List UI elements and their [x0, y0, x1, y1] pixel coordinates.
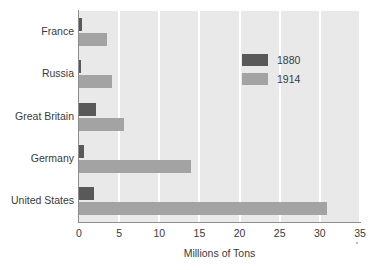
x-axis-line [79, 222, 361, 223]
x-tick-label-15: 15 [184, 226, 214, 240]
gridline-20 [239, 11, 241, 222]
legend-swatch-1914 [242, 73, 268, 85]
category-label-russia: Russia [0, 68, 74, 79]
legend-label-1880: 1880 [277, 54, 300, 66]
x-tick-label-35: 35 [345, 226, 375, 240]
bar-1914-united-states [79, 202, 327, 215]
bar-chart-figure: FranceRussiaGreat BritainGermanyUnited S… [0, 0, 377, 270]
y-axis-line [78, 10, 79, 223]
legend: 1880 1914 [238, 48, 331, 91]
x-tick-label-5: 5 [104, 226, 134, 240]
gridline-5 [118, 11, 120, 222]
x-axis-tick-labels: 05101520253035 [0, 226, 377, 242]
x-tick-label-25: 25 [265, 226, 295, 240]
bar-1914-great-britain [79, 118, 124, 131]
legend-entry-1880: 1880 [242, 52, 328, 67]
x-tick-label-20: 20 [225, 226, 255, 240]
x-tick-label-30: 30 [305, 226, 335, 240]
x-tick-label-10: 10 [144, 226, 174, 240]
bar-1880-germany [79, 145, 84, 158]
bar-1914-germany [79, 160, 191, 173]
bar-1880-russia [79, 60, 81, 73]
gridline-35 [359, 11, 360, 222]
category-label-great-britain: Great Britain [0, 111, 74, 122]
bar-1914-france [79, 33, 107, 46]
bar-1880-france [79, 18, 82, 31]
scan-artifact-speck [356, 242, 358, 244]
category-label-germany: Germany [0, 153, 74, 164]
legend-entry-1914: 1914 [242, 71, 328, 86]
bar-1880-great-britain [79, 103, 96, 116]
gridline-25 [279, 11, 281, 222]
gridline-15 [198, 11, 200, 222]
plot-area [79, 11, 360, 222]
legend-swatch-1880 [242, 54, 268, 66]
category-label-united-states: United States [0, 195, 74, 206]
x-axis-title: Millions of Tons [79, 247, 360, 259]
bar-1880-united-states [79, 187, 94, 200]
legend-label-1914: 1914 [277, 73, 300, 85]
category-label-france: France [0, 26, 74, 37]
category-axis-labels: FranceRussiaGreat BritainGermanyUnited S… [0, 11, 74, 222]
gridline-30 [319, 11, 321, 222]
gridline-10 [158, 11, 160, 222]
bar-1914-russia [79, 75, 112, 88]
x-tick-label-0: 0 [64, 226, 94, 240]
